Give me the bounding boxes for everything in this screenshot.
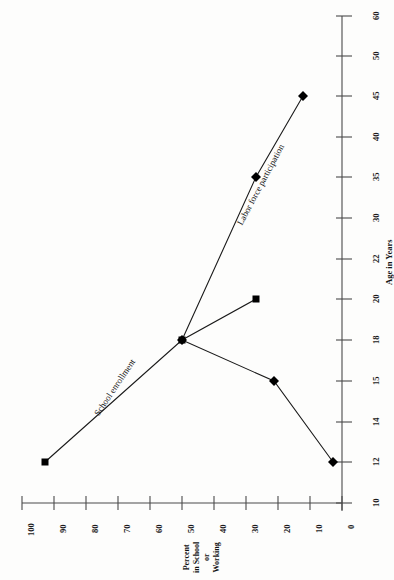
percent-tick-label: 30 [250, 525, 260, 534]
percent-axis-title-line: Working [212, 542, 222, 573]
age-tick-label: 18 [371, 336, 381, 345]
percent-tick-label: 50 [186, 525, 196, 534]
age-tick-label: 12 [371, 458, 381, 467]
labor-force-marker [269, 376, 279, 386]
age-tick-label: 60 [371, 12, 381, 21]
labor-force-marker [328, 457, 338, 467]
series-school-enrollment [42, 296, 260, 466]
labor-force-marker [298, 91, 308, 101]
school-enrollment-line [45, 299, 256, 462]
age-tick-label: 10 [371, 499, 381, 508]
series-labor-force-participation [177, 91, 338, 467]
age-tick-label: 22 [371, 255, 381, 264]
chart-plot-area [0, 0, 394, 580]
age-tick-label: 40 [371, 133, 381, 142]
labor-force-line [182, 96, 333, 462]
percent-tick-label: 0 [346, 525, 356, 529]
school-enrollment-marker [253, 296, 260, 303]
age-tick-label: 15 [371, 377, 381, 386]
chart-container: 100 90 80 70 60 50 40 30 20 10 0 10 12 1… [0, 0, 394, 580]
age-tick-label: 30 [371, 214, 381, 223]
age-axis-ticks [336, 16, 352, 503]
age-axis-title: Age in Years [384, 240, 394, 285]
percent-tick-label: 60 [154, 525, 164, 534]
percent-tick-label: 40 [218, 525, 228, 534]
age-tick-label: 45 [371, 92, 381, 101]
percent-tick-label: 100 [26, 523, 36, 536]
percent-tick-label: 80 [90, 525, 100, 534]
percent-tick-label: 90 [58, 525, 68, 534]
percent-tick-label: 20 [282, 525, 292, 534]
age-tick-label: 50 [371, 52, 381, 61]
age-tick-label: 20 [371, 295, 381, 304]
school-enrollment-marker [42, 459, 49, 466]
percent-axis-title-line: or [202, 542, 212, 573]
percent-tick-label: 70 [122, 525, 132, 534]
percent-axis-group [22, 496, 342, 510]
percent-axis-title-line: Percent [182, 542, 192, 573]
percent-tick-label: 10 [314, 525, 324, 534]
age-tick-label: 35 [371, 173, 381, 182]
percent-axis-title: Percent in School or Working [182, 542, 222, 573]
age-tick-label: 14 [371, 418, 381, 427]
age-axis-group [336, 16, 352, 511]
percent-axis-title-line: in School [192, 542, 202, 573]
